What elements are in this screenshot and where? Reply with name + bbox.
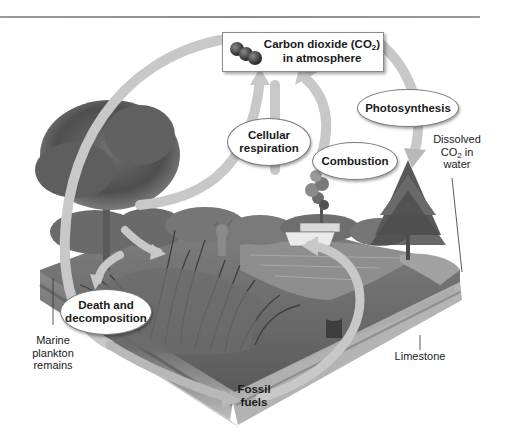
atmosphere-line2: in atmosphere xyxy=(283,52,362,64)
atmosphere-line1-end: ) xyxy=(376,38,380,50)
death-line2: decomposition xyxy=(65,312,147,324)
atmosphere-label: Carbon dioxide (CO2) in atmosphere xyxy=(263,37,381,65)
co2-molecule-icon xyxy=(229,40,263,66)
photosynthesis-label: Photosynthesis xyxy=(357,89,459,127)
smoke-plume xyxy=(305,170,329,210)
limestone-label: Limestone xyxy=(390,350,450,363)
plankton-line3: remains xyxy=(33,359,72,371)
dissolved-co: CO xyxy=(441,146,458,158)
fossil-line2: fuels xyxy=(241,396,268,408)
dissolved-line3: water xyxy=(444,158,471,170)
cellular-line2: respiration xyxy=(239,142,298,154)
death-text: Death anddecomposition xyxy=(65,299,147,325)
dissolved-co2-label: Dissolved CO2 in water xyxy=(427,133,487,171)
marine-plankton-label: Marine plankton remains xyxy=(22,334,84,372)
combustion-text: Combustion xyxy=(321,155,388,168)
dissolved-line1: Dissolved xyxy=(433,133,481,145)
tree-stump xyxy=(326,315,342,338)
plankton-line2: plankton xyxy=(32,347,74,359)
cellular-line1: Cellular xyxy=(248,129,290,141)
death-decomposition-label: Death anddecomposition xyxy=(60,289,152,335)
atmosphere-co2-box: Carbon dioxide (CO2) in atmosphere xyxy=(222,32,384,72)
dissolved-in: in xyxy=(462,146,474,158)
cellular-respiration-text: Cellularrespiration xyxy=(239,129,298,155)
limestone-text: Limestone xyxy=(395,350,446,362)
death-line1: Death and xyxy=(78,299,134,311)
fossil-line1: Fossil xyxy=(237,383,270,395)
atmosphere-line1: Carbon dioxide (CO xyxy=(264,38,372,50)
fossil-fuels-label: Fossil fuels xyxy=(232,383,276,409)
cellular-respiration-label: Cellularrespiration xyxy=(227,118,311,166)
combustion-label: Combustion xyxy=(312,142,398,180)
plankton-line1: Marine xyxy=(36,334,70,346)
photosynthesis-text: Photosynthesis xyxy=(365,102,451,115)
